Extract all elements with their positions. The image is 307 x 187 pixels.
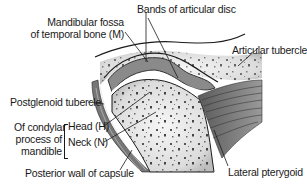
- tmj-diagram: Mandibular fossa of temporal bone (M) Ba…: [0, 0, 307, 187]
- label-neck: Neck (N): [68, 136, 108, 148]
- label-condylar-line2: process of: [14, 133, 62, 145]
- label-posterior-wall-of-capsule: Posterior wall of capsule: [25, 167, 134, 179]
- label-head: Head (H): [68, 120, 109, 132]
- label-condylar-process: Of condylar process of mandible: [14, 121, 62, 157]
- label-mandibular-fossa-line1: Mandibular fossa: [28, 16, 124, 28]
- label-articular-tubercle: Articular tubercle: [232, 44, 307, 56]
- label-condylar-line3: mandible: [14, 145, 62, 157]
- label-mandibular-fossa-line2: of temporal bone (M): [28, 28, 124, 40]
- label-bands-of-articular-disc: Bands of articular disc: [137, 3, 236, 15]
- label-condylar-line1: Of condylar: [14, 121, 62, 133]
- label-lateral-pterygoid: Lateral pterygoid: [228, 166, 303, 178]
- label-postglenoid-tubercle: Postglenoid tubercle: [10, 96, 101, 108]
- label-mandibular-fossa: Mandibular fossa of temporal bone (M): [28, 16, 124, 40]
